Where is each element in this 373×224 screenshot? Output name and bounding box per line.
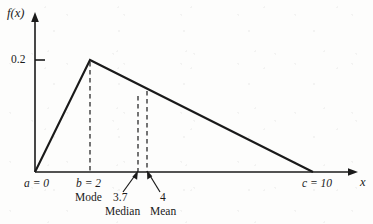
x-axis-label: x: [360, 176, 366, 189]
x-label-b: b = 2: [76, 178, 101, 190]
median-label: Median: [105, 206, 140, 218]
mean-label: Mean: [150, 206, 176, 218]
median-value-label: 3.7: [113, 192, 127, 204]
x-label-c: c = 10: [302, 178, 332, 190]
density-curve: [35, 60, 313, 172]
x-label-a: a = 0: [24, 178, 49, 190]
x-axis-arrowhead: [348, 168, 358, 176]
y-tick-label-0.2: 0.2: [11, 54, 25, 66]
mode-label: Mode: [75, 192, 102, 204]
mean-value-label: 4: [160, 192, 166, 204]
y-axis-label: f(x): [7, 7, 24, 20]
y-axis-arrowhead: [31, 12, 39, 22]
chart-canvas: [0, 0, 373, 224]
triangular-distribution-figure: f(x) x 0.2 a = 0 b = 2 c = 10 Mode 3.7 M…: [0, 0, 373, 224]
